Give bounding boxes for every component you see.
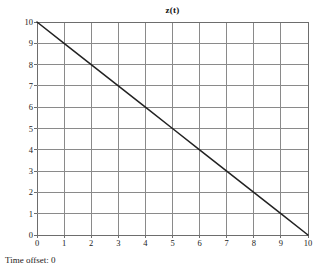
x-tick-label: 5 [170,239,174,248]
plot-area: 012345678910 012345678910 [37,22,308,235]
x-tick-label: 1 [62,239,66,248]
chart-figure: z(t) 012345678910 012345678910 Time offs… [0,0,323,274]
y-tick-label: 9 [29,39,33,48]
x-tick-label: 4 [143,239,147,248]
y-tick-label: 1 [29,209,33,218]
y-tick-label: 5 [29,124,33,133]
chart-title: z(t) [37,4,308,16]
time-offset-label: Time offset: 0 [5,255,56,266]
y-tick-label: 7 [29,81,33,90]
x-tick-label: 8 [252,239,256,248]
y-tick-label: 10 [25,18,34,27]
y-tick-label: 2 [29,188,33,197]
x-tick-label: 3 [116,239,120,248]
y-tick-label: 0 [29,231,33,240]
x-tick-label: 2 [89,239,93,248]
x-tick-label: 7 [225,239,229,248]
y-tick-label: 4 [29,145,33,154]
data-series-line [37,22,308,235]
y-tick-label: 6 [29,103,33,112]
y-tick-label: 8 [29,60,33,69]
x-tick-label: 6 [197,239,201,248]
x-tick-label: 10 [304,239,313,248]
x-tick-label: 0 [35,239,39,248]
x-tick-label: 9 [279,239,283,248]
y-tick-label: 3 [29,167,33,176]
